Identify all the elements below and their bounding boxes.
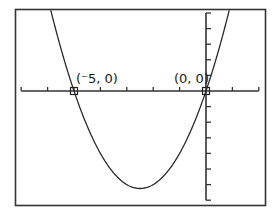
point-label-neg5: (⁻5, 0) — [76, 71, 118, 86]
graph-window: (⁻5, 0) (0, 0) — [0, 0, 280, 216]
point-label-origin: (0, 0) — [174, 71, 209, 86]
plot-frame — [16, 10, 266, 206]
